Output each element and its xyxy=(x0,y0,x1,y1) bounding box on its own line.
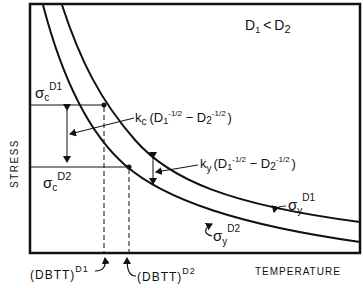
plot-frame xyxy=(30,4,360,253)
ky-leader xyxy=(156,165,198,172)
intersection-dot-d2 xyxy=(127,165,132,170)
x-axis-label: TEMPERATURE xyxy=(255,266,341,277)
sigma-y-d2-label: σyD2 xyxy=(213,223,240,247)
y-axis-label: STRESS xyxy=(9,139,20,188)
sigma-c-d2-label: σcD2 xyxy=(43,170,71,193)
dbtt-d2-arrow xyxy=(127,258,136,276)
ky-expression: ky(D1-1/2 − D2-1/2) xyxy=(200,155,296,174)
dbtt-d2-label: (DBTT)D2 xyxy=(137,266,196,284)
sigma-c-d1-label: σcD1 xyxy=(35,81,62,103)
dbtt-diagram: D1<D2 σcD1 σcD2 kc(D1-1/2 − D2-1/2) ky(D… xyxy=(0,0,363,288)
condition-label: D1<D2 xyxy=(245,17,291,35)
sigma-y-d2-leader xyxy=(206,224,212,236)
kc-expression: kc(D1-1/2 − D2-1/2) xyxy=(135,109,232,127)
sigma-y-d1-label: σyD1 xyxy=(288,192,315,216)
dbtt-d1-label: (DBTT)D1 xyxy=(30,264,89,282)
intersection-dot-d1 xyxy=(102,103,107,108)
dbtt-d1-arrow xyxy=(95,258,105,271)
